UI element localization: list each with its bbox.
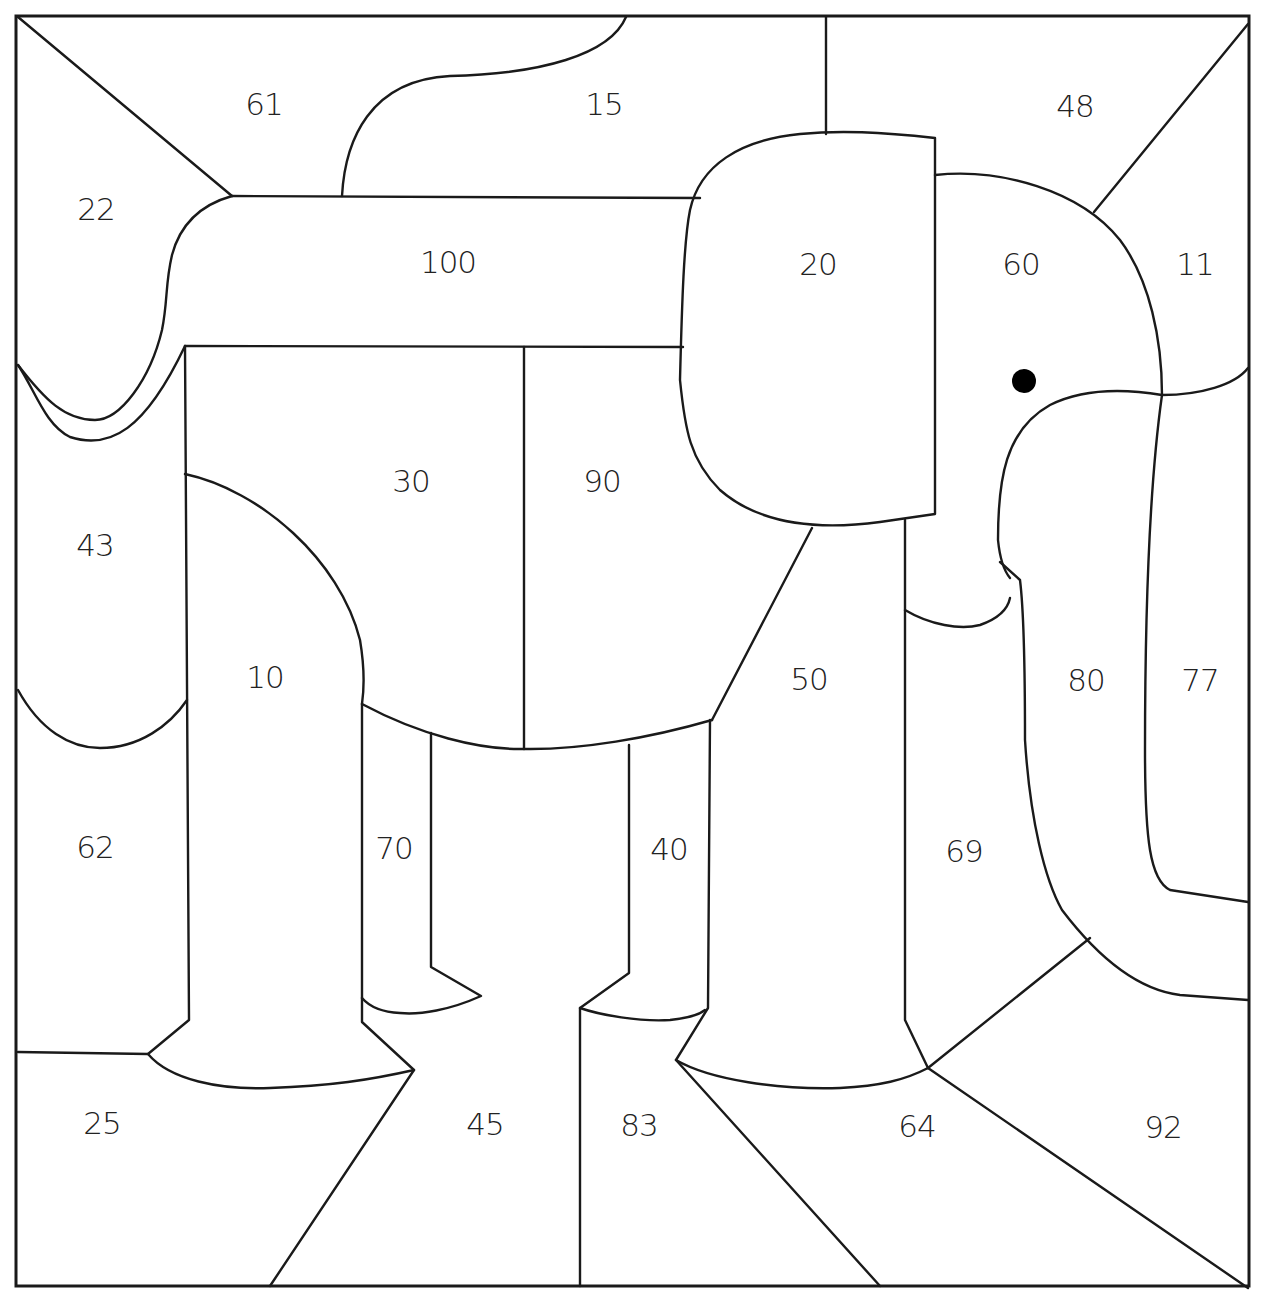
- region-number-30[interactable]: 30: [392, 463, 429, 499]
- outline: [928, 1068, 1248, 1288]
- region-number-62[interactable]: 62: [76, 829, 113, 865]
- region-number-15[interactable]: 15: [585, 86, 622, 122]
- region-number-48[interactable]: 48: [1056, 88, 1093, 124]
- outline: [18, 690, 187, 748]
- outline: [905, 598, 1010, 627]
- outline: [935, 174, 1162, 395]
- outline: [362, 733, 481, 1013]
- region-number-61[interactable]: 61: [245, 86, 282, 122]
- outline: [905, 520, 928, 1068]
- outline: [676, 720, 928, 1088]
- outline: [580, 745, 705, 1020]
- region-number-77[interactable]: 77: [1181, 662, 1218, 698]
- region-number-43[interactable]: 43: [76, 527, 113, 563]
- elephant-eye: [1012, 369, 1036, 393]
- region-number-90[interactable]: 90: [583, 463, 620, 499]
- region-number-45[interactable]: 45: [466, 1106, 503, 1142]
- region-number-11[interactable]: 11: [1176, 246, 1213, 282]
- region-number-70[interactable]: 70: [375, 830, 412, 866]
- outline: [928, 938, 1090, 1068]
- region-number-83[interactable]: 83: [620, 1107, 657, 1143]
- outline: [18, 196, 232, 420]
- outline: [270, 1070, 414, 1286]
- region-number-100[interactable]: 100: [420, 244, 476, 280]
- outline: [342, 17, 626, 196]
- region-number-20[interactable]: 20: [799, 246, 836, 282]
- region-number-22[interactable]: 22: [77, 191, 114, 227]
- worksheet-frame: [16, 16, 1249, 1286]
- outline: [1162, 368, 1248, 395]
- outline: [680, 132, 935, 525]
- region-number-80[interactable]: 80: [1067, 662, 1104, 698]
- outline: [232, 196, 700, 198]
- region-number-40[interactable]: 40: [650, 831, 687, 867]
- outline: [676, 1060, 880, 1286]
- region-number-92[interactable]: 92: [1144, 1109, 1181, 1145]
- region-number-69[interactable]: 69: [945, 833, 982, 869]
- region-number-64[interactable]: 64: [898, 1108, 935, 1144]
- region-number-10[interactable]: 10: [246, 659, 283, 695]
- outline: [18, 1052, 148, 1054]
- region-number-25[interactable]: 25: [83, 1105, 120, 1141]
- outline: [1145, 395, 1248, 902]
- outline: [148, 346, 414, 1088]
- outline: [362, 704, 712, 749]
- outline: [1000, 562, 1248, 1000]
- region-number-60[interactable]: 60: [1002, 246, 1039, 282]
- outline: [998, 391, 1162, 578]
- region-number-50[interactable]: 50: [790, 661, 827, 697]
- outline: [1094, 24, 1248, 212]
- outline: [18, 17, 232, 196]
- outline: [185, 346, 683, 347]
